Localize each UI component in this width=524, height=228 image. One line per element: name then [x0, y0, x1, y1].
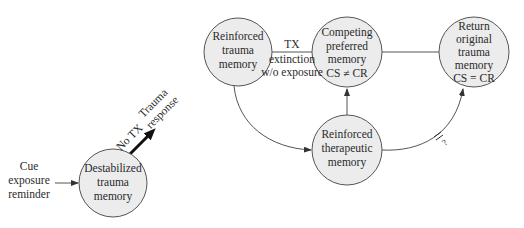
svg-text:w/o exposure: w/o exposure — [261, 66, 323, 79]
node-label-line: Reinforced — [321, 128, 372, 140]
therapeutic-to-return-arrow — [382, 89, 463, 150]
node-return-original-trauma-memory: Return original trauma memory CS = CR — [439, 17, 509, 87]
node-label-line: memory — [94, 190, 133, 203]
svg-text:exposure: exposure — [8, 174, 50, 187]
trauma-response-label: Trauma response — [134, 84, 181, 131]
node-label-line: Destabilized — [84, 162, 142, 174]
node-label-line: memory — [328, 156, 367, 169]
node-reinforced-therapeutic-memory: Reinforced therapeutic memory — [312, 115, 382, 185]
node-destabilized-trauma-memory: Destabilized trauma memory — [79, 149, 147, 217]
node-label-line: trauma — [97, 176, 129, 188]
svg-text:reminder: reminder — [8, 188, 50, 200]
svg-text:Cue: Cue — [20, 160, 39, 172]
node-label-line: CS = CR — [453, 72, 495, 84]
node-label-line: preferred — [326, 40, 368, 53]
node-label-line: CS ≠ CR — [326, 67, 368, 79]
no-tx-label: No TX — [114, 121, 146, 153]
svg-text:TX: TX — [284, 38, 300, 50]
trauma-to-therapeutic-arrow — [234, 86, 311, 150]
node-label-line: trauma — [458, 46, 490, 58]
node-label-line: Return — [458, 20, 490, 32]
node-label-line: Competing — [321, 26, 372, 39]
svg-text:extinction: extinction — [269, 53, 315, 65]
node-label-line: memory — [455, 59, 494, 72]
node-label-line: Reinforced — [212, 30, 263, 42]
node-label-line: original — [456, 33, 492, 46]
memory-reconsolidation-diagram: ? Destabilized trauma memory Reinforced … — [0, 0, 524, 228]
blocked-question-mark: ? — [440, 137, 449, 147]
node-label-line: trauma — [222, 44, 254, 56]
node-label-line: therapeutic — [321, 142, 372, 155]
node-label-line: memory — [219, 58, 258, 71]
cue-exposure-reminder-label: Cue exposure reminder — [8, 160, 50, 200]
node-label-line: memory — [328, 53, 367, 66]
